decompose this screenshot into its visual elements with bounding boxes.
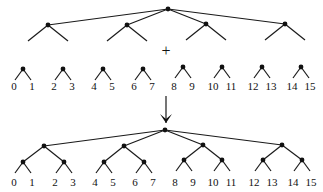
- bottom-tree-edge: [44, 130, 165, 146]
- leaf-label: 15: [305, 80, 317, 92]
- leaf-label: 15: [306, 176, 318, 188]
- top-tree-child-node: [204, 22, 209, 27]
- tree-merge-diagram: +012345678910111213141501234567891011121…: [0, 0, 323, 192]
- plus-symbol: +: [161, 42, 170, 59]
- leaf-label: 9: [190, 176, 196, 188]
- small-tree-node: [260, 65, 265, 70]
- small-tree-node: [21, 67, 26, 72]
- bottom-tree-edge: [282, 145, 302, 160]
- small-tree-node: [220, 65, 225, 70]
- small-tree-node: [141, 67, 146, 72]
- top-tree-edge: [48, 9, 168, 25]
- leaf-label: 9: [189, 80, 195, 92]
- bottom-tree-level1-node: [201, 143, 206, 148]
- top-tree-child-node: [125, 23, 130, 28]
- leaf-label: 6: [131, 80, 137, 92]
- top-tree-stub-right: [206, 24, 226, 40]
- leaf-label: 10: [208, 176, 220, 188]
- bottom-tree-edge: [23, 146, 44, 162]
- bottom-tree-level2-node: [261, 158, 266, 163]
- bottom-tree-level2-node: [182, 158, 187, 163]
- leaf-label: 11: [226, 176, 237, 188]
- small-tree-node: [61, 67, 66, 72]
- bottom-tree-edge: [203, 145, 222, 160]
- bottom-tree-edge: [104, 146, 124, 162]
- top-tree-stub-left: [28, 25, 48, 41]
- small-tree-node: [101, 67, 106, 72]
- small-tree-node: [299, 65, 304, 70]
- leaf-label: 0: [11, 80, 17, 92]
- bottom-tree-level2-node: [102, 160, 107, 165]
- leaf-label: 2: [51, 80, 57, 92]
- top-tree-child-node: [46, 23, 51, 28]
- leaf-label: 5: [110, 176, 116, 188]
- bottom-tree-edge: [124, 146, 144, 162]
- bottom-tree-level2-node: [142, 160, 147, 165]
- top-tree-stub-left: [186, 24, 206, 40]
- leaf-label: 12: [249, 176, 260, 188]
- bottom-tree-root-node: [163, 128, 168, 133]
- bottom-tree-level2-node: [300, 158, 305, 163]
- leaf-label: 7: [149, 80, 155, 92]
- leaf-label: 2: [52, 176, 58, 188]
- leaf-label: 3: [70, 176, 76, 188]
- bottom-tree-level1-node: [42, 144, 47, 149]
- leaf-label: 4: [92, 176, 98, 188]
- leaf-label: 10: [208, 80, 220, 92]
- leaf-label: 11: [226, 80, 237, 92]
- leaf-label: 13: [267, 176, 279, 188]
- leaf-label: 7: [150, 176, 156, 188]
- diagram-svg: +012345678910111213141501234567891011121…: [0, 0, 323, 192]
- leaf-label: 1: [29, 176, 35, 188]
- leaf-label: 4: [91, 80, 97, 92]
- leaf-label: 1: [29, 80, 35, 92]
- bottom-tree-level2-node: [62, 160, 67, 165]
- bottom-tree-level2-node: [220, 158, 225, 163]
- top-tree-stub-right: [48, 25, 68, 41]
- bottom-tree-level1-node: [280, 143, 285, 148]
- leaf-label: 8: [172, 176, 178, 188]
- leaf-label: 3: [69, 80, 75, 92]
- top-tree-stub-left: [265, 24, 285, 40]
- leaf-label: 6: [132, 176, 138, 188]
- top-tree-stub-left: [107, 25, 127, 41]
- leaf-label: 14: [287, 80, 299, 92]
- leaf-label: 14: [288, 176, 300, 188]
- top-tree-root-node: [166, 7, 171, 12]
- top-tree-stub-right: [285, 24, 305, 40]
- leaf-label: 12: [248, 80, 259, 92]
- bottom-tree-edge: [44, 146, 64, 162]
- top-tree-stub-right: [127, 25, 147, 41]
- leaf-label: 5: [109, 80, 115, 92]
- leaf-label: 0: [11, 176, 17, 188]
- bottom-tree-level1-node: [122, 144, 127, 149]
- leaf-label: 13: [266, 80, 278, 92]
- top-tree-child-node: [283, 22, 288, 27]
- leaf-label: 8: [171, 80, 177, 92]
- small-tree-node: [181, 65, 186, 70]
- bottom-tree-edge: [184, 145, 203, 160]
- bottom-tree-level2-node: [21, 160, 26, 165]
- bottom-tree-edge: [263, 145, 282, 160]
